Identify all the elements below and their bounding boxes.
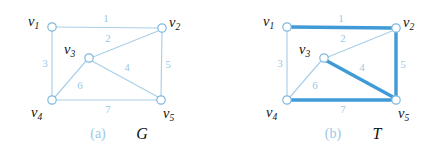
edge-weight-label: 7 [340,103,346,115]
graph-vertex-v2[interactable] [158,24,166,32]
edge-weight-label: 6 [77,79,83,91]
panel-caption-tag: (b) [325,126,342,142]
edge-weight-label: 7 [105,103,111,115]
graph-vertex-v5[interactable] [392,96,400,104]
edge-weight-label: 1 [338,12,344,24]
panel-b: 1234567v1v2v3v4v5(b)T [263,12,414,142]
vertex-label-v2: v2 [169,14,180,32]
vertex-label-v2: v2 [403,14,414,32]
edge-weight-label: 4 [359,61,365,73]
vertex-label-v3: v3 [64,41,75,59]
panel-a: 1234567v1v2v3v4v5(a)G [28,12,180,142]
graph-edge-v3-v2[interactable] [93,31,158,57]
graph-vertex-v1[interactable] [283,23,291,31]
vertex-label-v5: v5 [398,105,409,123]
vertex-label-v4: v4 [266,104,277,122]
vertex-label-v5: v5 [163,105,174,123]
edge-weight-label: 4 [124,61,130,73]
edge-weight-label: 3 [42,57,48,69]
vertex-label-v3: v3 [299,41,310,59]
graph-edge-v2-v5[interactable] [161,32,162,96]
edge-weight-label: 6 [312,79,318,91]
panel-caption-name: G [136,125,148,142]
vertex-label-v1: v1 [28,13,39,31]
graph-vertex-v3[interactable] [320,54,328,62]
vertex-label-v1: v1 [263,13,274,31]
figure-container: 1234567v1v2v3v4v5(a)G1234567v1v2v3v4v5(b… [0,0,441,158]
graph-edge-v1-v2[interactable] [291,27,392,28]
graph-figure-svg: 1234567v1v2v3v4v5(a)G1234567v1v2v3v4v5(b… [0,0,441,158]
edge-weight-label: 5 [400,58,406,70]
edge-weight-label: 2 [340,32,346,44]
vertex-label-v4: v4 [31,104,42,122]
edge-weight-label: 1 [103,12,109,24]
panel-caption-name: T [373,125,383,142]
graph-edge-v3-v2[interactable] [328,31,392,57]
edge-weight-label: 2 [105,32,111,44]
graph-vertex-v5[interactable] [157,96,165,104]
panel-caption-tag: (a) [90,126,106,142]
graph-edge-v1-v2[interactable] [56,27,158,28]
graph-vertex-v4[interactable] [48,96,56,104]
graph-vertex-v1[interactable] [48,23,56,31]
graph-vertex-v3[interactable] [85,54,93,62]
graph-vertex-v2[interactable] [392,24,400,32]
graph-vertex-v4[interactable] [283,96,291,104]
graph-render-root: 1234567v1v2v3v4v5(a)G1234567v1v2v3v4v5(b… [28,12,414,142]
edge-weight-label: 5 [165,58,171,70]
edge-weight-label: 3 [277,57,283,69]
